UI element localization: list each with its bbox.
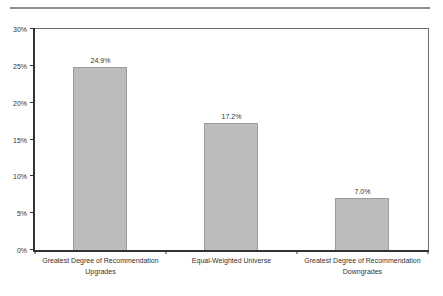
bar xyxy=(73,67,127,250)
bar-chart: 0%5%10%15%20%25%30%24.9%Greatest Degree … xyxy=(0,0,443,296)
bar-slot: 17.2%Equal-Weighted Universe xyxy=(166,29,297,250)
bar-value-label: 24.9% xyxy=(91,57,111,64)
bar-slot: 24.9%Greatest Degree of Recommendation U… xyxy=(35,29,166,250)
x-axis-tick-mark xyxy=(165,250,166,254)
y-axis-tick-label: 30% xyxy=(13,26,27,33)
x-axis-tick-mark xyxy=(428,250,429,254)
y-axis-tick-label: 20% xyxy=(13,99,27,106)
x-axis-tick-mark xyxy=(296,250,297,254)
y-axis-tick-label: 0% xyxy=(17,247,27,254)
bar xyxy=(335,198,389,250)
y-axis-tick-label: 25% xyxy=(13,62,27,69)
category-label: Greatest Degree of Recommendation Upgrad… xyxy=(37,256,163,278)
bar-value-label: 7.0% xyxy=(354,188,370,195)
x-axis-tick-mark xyxy=(35,250,36,254)
plot-area: 0%5%10%15%20%25%30%24.9%Greatest Degree … xyxy=(33,28,429,252)
category-label: Greatest Degree of Recommendation Downgr… xyxy=(299,256,425,278)
y-axis-tick-label: 5% xyxy=(17,210,27,217)
category-label: Equal-Weighted Universe xyxy=(168,256,294,267)
y-axis-tick-label: 10% xyxy=(13,173,27,180)
y-axis-tick-label: 15% xyxy=(13,136,27,143)
top-divider-line xyxy=(10,7,430,9)
bar xyxy=(204,123,258,250)
bar-slot: 7.0%Greatest Degree of Recommendation Do… xyxy=(297,29,428,250)
bar-value-label: 17.2% xyxy=(222,113,242,120)
